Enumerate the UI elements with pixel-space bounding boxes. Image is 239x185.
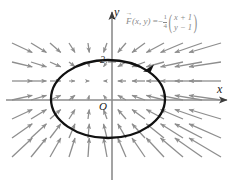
field-arrow — [50, 124, 61, 138]
vector-field-formula: F(x, y) =−14(x + 1y − 1) — [126, 12, 199, 32]
field-arrow — [189, 110, 221, 120]
field-arrow — [69, 110, 75, 120]
x-axis-label: x — [217, 83, 222, 95]
field-arrow — [88, 110, 89, 120]
y-axis-label: y — [114, 6, 119, 18]
field-arrow — [132, 138, 145, 157]
field-arrow — [12, 43, 32, 53]
field-arrow — [189, 43, 221, 53]
field-arrow — [146, 138, 164, 157]
formula-right-paren: ) — [194, 14, 198, 30]
origin-label: O — [99, 101, 107, 112]
field-arrow — [50, 62, 61, 67]
field-arrow — [31, 138, 47, 157]
vector-field-canvas — [0, 0, 239, 185]
field-arrow — [69, 138, 75, 157]
formula-vector-row-1: x + 1 — [174, 12, 192, 22]
formula-column-vector: x + 1y − 1 — [174, 12, 192, 32]
y-axis-tick-2-label: 2 — [100, 55, 105, 65]
formula-fraction: 14 — [163, 14, 167, 30]
formula-arguments: (x, y) — [132, 16, 150, 26]
field-arrow — [31, 110, 47, 120]
field-arrow — [12, 138, 32, 157]
field-arrow — [31, 43, 47, 53]
field-arrow — [69, 43, 75, 53]
formula-vector-row-2: y − 1 — [174, 22, 192, 32]
field-arrow — [118, 138, 126, 157]
field-arrow — [118, 43, 126, 53]
field-arrow — [189, 62, 221, 67]
ellipse-curve — [51, 60, 165, 138]
field-arrow — [146, 43, 164, 53]
field-arrow — [132, 110, 145, 120]
field-arrow — [189, 138, 221, 157]
field-arrow — [88, 43, 89, 53]
field-arrow — [31, 62, 47, 67]
formula-function-name: F — [126, 16, 132, 26]
field-arrow — [50, 138, 61, 157]
field-arrow — [189, 124, 221, 138]
formula-left-paren: ( — [169, 14, 173, 30]
field-arrow — [104, 138, 108, 157]
field-arrow — [12, 110, 32, 120]
field-arrow — [50, 43, 61, 53]
field-arrow — [69, 62, 75, 67]
formula-sign: − — [158, 16, 163, 26]
field-arrow — [31, 124, 47, 138]
field-arrow — [12, 124, 32, 138]
field-arrow — [118, 110, 126, 120]
vector-field-figure: y x O 2 F(x, y) =−14(x + 1y − 1) — [0, 0, 239, 185]
formula-fraction-denominator: 4 — [163, 22, 167, 30]
field-arrow — [132, 43, 145, 53]
field-arrow — [104, 43, 108, 53]
field-arrow — [12, 62, 32, 67]
formula-fraction-numerator: 1 — [163, 14, 167, 21]
field-arrow — [104, 124, 108, 138]
field-arrow — [88, 138, 89, 157]
